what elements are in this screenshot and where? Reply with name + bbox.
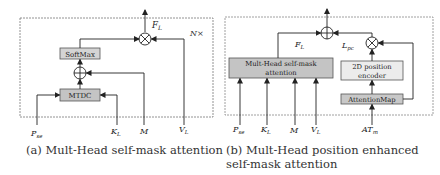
diagram-a: N× FL SoftMax MTDC bbox=[20, 10, 213, 139]
add-node-icon bbox=[74, 67, 86, 79]
caption-b: (b) Mult-Head position enhanced self-mas… bbox=[226, 143, 436, 171]
repeat-label: N× bbox=[189, 29, 204, 38]
input-label-pse: Pse bbox=[232, 125, 245, 135]
input-label-kl: KL bbox=[110, 127, 121, 137]
diagram-canvas: N× FL SoftMax MTDC bbox=[0, 0, 440, 140]
fl-label: FL bbox=[294, 40, 305, 50]
add-node-icon bbox=[321, 27, 333, 39]
multiply-node-icon bbox=[139, 33, 151, 45]
input-label-vl: VL bbox=[311, 125, 321, 135]
svg-text:Mult-Head self-mask: Mult-Head self-mask bbox=[245, 60, 317, 68]
diagram-b: Mult-Head self-mask attention FL Lpc 2D … bbox=[225, 9, 433, 135]
svg-text:2D position: 2D position bbox=[352, 63, 392, 71]
input-label-atm: ATm bbox=[361, 125, 378, 135]
svg-text:MTDC: MTDC bbox=[69, 92, 92, 100]
input-label-pse: Pse bbox=[30, 129, 43, 139]
input-label-vl: VL bbox=[179, 125, 189, 135]
svg-text:encoder: encoder bbox=[358, 72, 387, 80]
multiply-node-icon bbox=[366, 37, 378, 49]
input-label-m: M bbox=[139, 127, 149, 136]
svg-text:attention: attention bbox=[265, 69, 297, 77]
caption-a: (a) Mult-Head self-mask attention bbox=[26, 143, 223, 157]
input-label-m: M bbox=[289, 126, 299, 135]
output-fl-label: FL bbox=[151, 20, 162, 31]
input-label-kl: KL bbox=[260, 125, 271, 135]
svg-text:AttentionMap: AttentionMap bbox=[347, 96, 396, 104]
svg-text:SoftMax: SoftMax bbox=[65, 51, 95, 59]
lpc-label: Lpc bbox=[341, 41, 354, 52]
